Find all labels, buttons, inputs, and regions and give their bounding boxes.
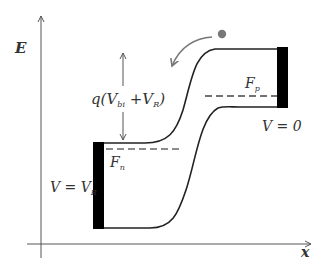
band-diagram: E x q(Vbi +VR) Fn Fp V = VR V = 0 [0, 0, 327, 270]
left-contact [93, 142, 104, 229]
left-voltage-text: V = V [50, 179, 93, 195]
y-axis-label: E [14, 39, 27, 57]
band-diagram-canvas: E x q(Vbi +VR) Fn Fp V = VR V = 0 [0, 0, 327, 270]
fn-sub: n [120, 163, 125, 172]
electron-dot [218, 30, 226, 38]
valence-band-curve [104, 107, 277, 228]
barrier-v2-sub: R [152, 100, 159, 109]
barrier-plus: + [125, 90, 142, 108]
right-voltage-label: V = 0 [262, 118, 302, 134]
right-contact [277, 47, 288, 108]
left-voltage-label: V = VR [50, 179, 97, 197]
barrier-height-label: q(Vbi +VR) [91, 90, 165, 109]
electron-drift-arrow [172, 37, 212, 66]
barrier-prefix: q( [91, 90, 108, 108]
barrier-suffix: ) [158, 90, 165, 108]
fp-label: Fp [244, 75, 260, 93]
fn-label: Fn [109, 154, 125, 172]
left-voltage-sub: R [90, 188, 97, 197]
x-axis-label: x [300, 244, 310, 260]
fp-sub: p [255, 84, 260, 93]
